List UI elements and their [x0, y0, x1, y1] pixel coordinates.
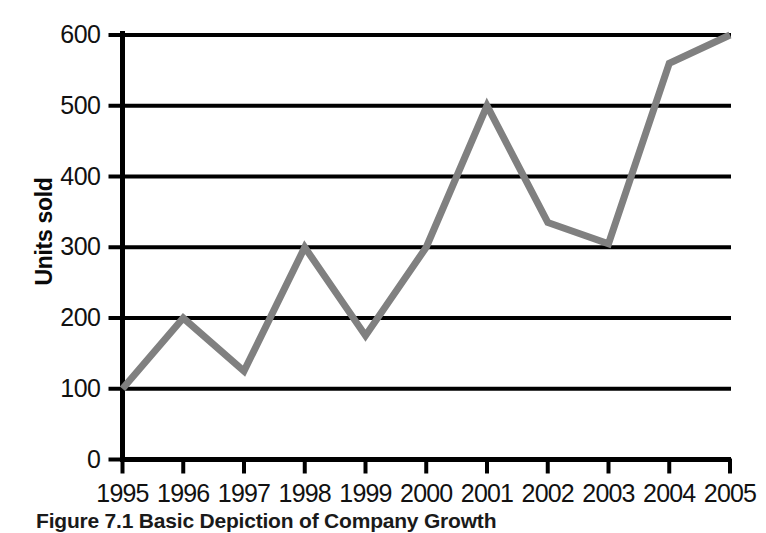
y-axis-tick-label: 600	[21, 22, 101, 47]
figure-caption: Figure 7.1 Basic Depiction of Company Gr…	[36, 509, 496, 533]
x-axis-tick-label: 2005	[690, 481, 766, 506]
y-axis-tick-label: 100	[21, 376, 101, 401]
data-series-line	[123, 35, 731, 389]
y-axis-tick-label: 0	[21, 447, 101, 472]
y-axis-tick-label: 500	[21, 93, 101, 118]
y-axis-tick-label: 200	[21, 305, 101, 330]
y-axis-title: Units sold	[31, 157, 58, 307]
gridlines	[123, 35, 732, 389]
